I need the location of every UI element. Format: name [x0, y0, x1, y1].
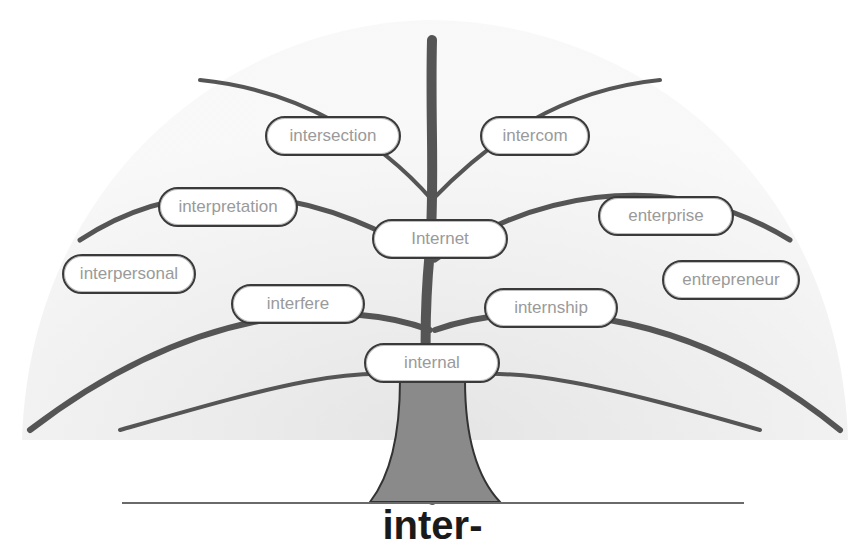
label-interfere: interfere: [231, 284, 365, 324]
label-internship: internship: [484, 288, 618, 328]
label-intersection: intersection: [265, 116, 401, 156]
label-enterprise: enterprise: [598, 196, 734, 236]
label-interpretation: interpretation: [158, 187, 298, 227]
label-intercom: intercom: [480, 116, 590, 156]
label-internet: Internet: [372, 219, 508, 259]
prefix-title: inter-: [0, 503, 865, 545]
label-internal: internal: [364, 343, 500, 383]
label-interpersonal: interpersonal: [62, 254, 196, 294]
label-entrepreneur: entrepreneur: [662, 260, 800, 300]
